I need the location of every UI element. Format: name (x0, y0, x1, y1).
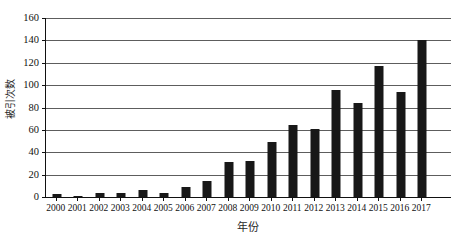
y-axis-tickmark (42, 18, 46, 19)
y-axis-tick-label: 160 (23, 13, 39, 24)
x-axis-tick-label: 2010 (261, 201, 280, 215)
bar-slot (197, 18, 219, 197)
y-axis-tickmark (42, 40, 46, 41)
bar[interactable] (181, 187, 190, 197)
y-axis-tick-label: 80 (29, 102, 40, 113)
x-axis-tick-label: 2002 (89, 201, 108, 215)
bar[interactable] (396, 92, 405, 197)
x-axis-title: 年份 (45, 218, 450, 234)
x-axis-tick-label: 2004 (132, 201, 151, 215)
y-axis-tickmark (42, 152, 46, 153)
y-axis-tickmark (42, 108, 46, 109)
bar-slot (304, 18, 326, 197)
x-axis-tick-label: 2001 (68, 201, 87, 215)
bar[interactable] (332, 90, 341, 197)
bar[interactable] (267, 142, 276, 197)
x-axis-tick-label: 2007 (197, 201, 216, 215)
x-axis-tick-label: 2017 (412, 201, 431, 215)
x-axis-tick-label: 2003 (111, 201, 130, 215)
bar-chart: 被引次数 020406080100120140160 2000200120022… (0, 0, 457, 239)
bar[interactable] (246, 161, 255, 197)
y-axis-tickmark (42, 130, 46, 131)
x-axis-tick-label: 2012 (304, 201, 323, 215)
y-axis-tick-label: 60 (29, 125, 40, 136)
bar-slot (175, 18, 197, 197)
y-axis-tickmark (42, 63, 46, 64)
bar-slot (390, 18, 412, 197)
y-axis-tick-labels: 020406080100120140160 (14, 18, 42, 197)
x-axis-tick-label: 2014 (347, 201, 366, 215)
bar-slot (283, 18, 305, 197)
x-axis-tick-label: 2011 (283, 201, 302, 215)
x-axis-tick-label: 2013 (326, 201, 345, 215)
bar-slot (218, 18, 240, 197)
bar-slot (261, 18, 283, 197)
bar-slot (347, 18, 369, 197)
y-axis-tick-label: 40 (29, 147, 40, 158)
bar-slot (89, 18, 111, 197)
bar-slot (154, 18, 176, 197)
bar[interactable] (203, 181, 212, 197)
y-axis-tick-label: 0 (34, 192, 39, 203)
x-axis-tick-label: 2009 (240, 201, 259, 215)
y-axis-tick-label: 120 (23, 58, 39, 69)
bar-slot (369, 18, 391, 197)
y-axis-tick-label: 100 (23, 80, 39, 91)
y-axis-tick-label: 140 (23, 35, 39, 46)
bar[interactable] (375, 66, 384, 197)
x-axis-tick-label: 2015 (369, 201, 388, 215)
bar[interactable] (224, 162, 233, 197)
y-axis-tickmark (42, 85, 46, 86)
plot-area (45, 18, 451, 198)
bar-slot (111, 18, 133, 197)
x-axis-tick-label: 2016 (390, 201, 409, 215)
x-axis-tick-labels: 2000200120022003200420052006200720082009… (45, 201, 450, 215)
x-axis-tick-label: 2000 (46, 201, 65, 215)
bar[interactable] (289, 125, 298, 197)
x-axis-tick-label: 2006 (175, 201, 194, 215)
x-axis-title-label: 年份 (237, 221, 259, 233)
y-axis-tick-label: 20 (29, 169, 40, 180)
bar[interactable] (138, 190, 147, 197)
bar[interactable] (353, 103, 362, 197)
bars-layer (46, 18, 451, 197)
bar[interactable] (310, 129, 319, 197)
bar-slot (68, 18, 90, 197)
y-axis-tickmark (42, 175, 46, 176)
x-axis-tick-label: 2005 (154, 201, 173, 215)
bar-slot (412, 18, 434, 197)
bar-slot (240, 18, 262, 197)
bar-slot (326, 18, 348, 197)
x-axis-tick-label: 2008 (218, 201, 237, 215)
bar[interactable] (418, 40, 427, 197)
bar-slot (46, 18, 68, 197)
bar-slot (132, 18, 154, 197)
